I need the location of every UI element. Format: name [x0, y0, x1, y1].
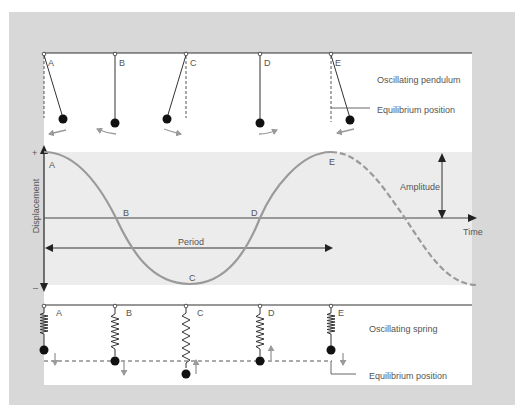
- graph-point-c: C: [189, 274, 196, 283]
- period-label: Period: [178, 238, 204, 247]
- pendulum-label-b: B: [119, 59, 125, 68]
- spring-label-b: B: [126, 309, 132, 318]
- pivot-icon: [329, 52, 333, 56]
- pendulum-bob: [59, 115, 68, 124]
- graph-point-b: B: [123, 209, 129, 218]
- pivot-icon: [258, 52, 262, 56]
- pivot-icon: [258, 304, 262, 308]
- pendulum-bob: [346, 116, 355, 125]
- spring-mass: [256, 357, 265, 366]
- motion-arrow-right-icon: [164, 129, 181, 134]
- pendulum-label-c: C: [190, 59, 197, 68]
- time-arrow-icon: [468, 214, 477, 222]
- pendulum-c: [163, 52, 188, 134]
- spring-mass: [111, 357, 120, 366]
- pendulum-bob: [256, 119, 265, 128]
- pendulum-title: Oscillating pendulum: [377, 76, 461, 85]
- y-minus-sign: –: [33, 284, 38, 293]
- motion-arrow-left-icon: [49, 130, 66, 134]
- pendulum-equilibrium-label: Equilibrium position: [377, 106, 455, 115]
- spring-equilibrium-label: Equilibrium position: [369, 372, 447, 381]
- pendulum-b: [97, 52, 120, 134]
- pendulum-a: [42, 52, 67, 134]
- spring-mass: [40, 346, 49, 355]
- amplitude-label: Amplitude: [400, 183, 440, 192]
- amplitude-arrow-up-icon: [438, 153, 446, 162]
- pendulum-label-a: A: [48, 59, 54, 68]
- pivot-icon: [42, 52, 46, 56]
- pivot-icon: [184, 52, 188, 56]
- spring-a: [40, 304, 56, 365]
- pivot-icon: [329, 304, 333, 308]
- pendulum-label-d: D: [264, 59, 271, 68]
- y-plus-sign: +: [32, 149, 37, 158]
- y-axis-label: Displacement: [31, 176, 41, 236]
- motion-arrow-left-icon: [337, 129, 354, 133]
- graph-group: [40, 145, 477, 292]
- spring-label-c: C: [197, 309, 204, 318]
- period-arrow-right-icon: [325, 244, 333, 252]
- pivot-icon: [113, 304, 117, 308]
- y-axis-down-arrow-icon: [40, 283, 48, 292]
- spring-c: [182, 304, 197, 378]
- motion-arrow-left-icon: [97, 129, 116, 134]
- motion-arrow-right-icon: [259, 130, 277, 134]
- period-arrow-left-icon: [45, 244, 53, 252]
- spring-group: [40, 304, 473, 378]
- spring-label-e: E: [338, 309, 344, 318]
- pendulum-group: [42, 52, 472, 134]
- graph-point-a: A: [49, 161, 55, 170]
- pendulum-bob: [111, 119, 120, 128]
- spring-label-a: A: [56, 309, 62, 318]
- pendulum-label-e: E: [335, 59, 341, 68]
- pivot-icon: [42, 304, 46, 308]
- spring-label-d: D: [268, 309, 275, 318]
- graph-point-d: D: [251, 209, 258, 218]
- pendulum-bob: [163, 115, 172, 124]
- spring-mass: [182, 370, 191, 379]
- spring-b: [111, 304, 125, 375]
- pivot-icon: [184, 304, 188, 308]
- x-axis-label: Time: [463, 228, 483, 237]
- spring-title: Oscillating spring: [369, 325, 438, 334]
- pivot-icon: [113, 52, 117, 56]
- graph-point-e: E: [329, 158, 335, 167]
- spring-mass: [327, 346, 336, 355]
